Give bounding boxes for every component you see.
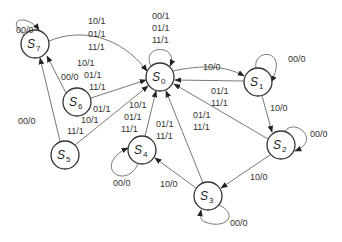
- label-s1-self: 00/0: [288, 54, 306, 64]
- label-s3-self: 00/0: [230, 218, 248, 228]
- label-s3-s0-1: 01/1: [156, 119, 174, 129]
- label-s7-s0-2: 01/1: [88, 29, 106, 39]
- label-s4-s0-1: 10/1: [129, 100, 147, 110]
- label-s3-s4: 10/0: [160, 179, 178, 189]
- label-s3-s0-2: 11/1: [156, 131, 173, 141]
- svg-text:S: S: [27, 37, 35, 51]
- label-s5-s0-1: 01/1: [93, 104, 111, 114]
- state-s1: S 1: [244, 68, 272, 96]
- svg-text:S: S: [200, 189, 208, 203]
- label-s6-s0-2: 01/1: [84, 70, 102, 80]
- svg-text:S: S: [57, 148, 65, 162]
- label-s1-s0-2: 11/1: [211, 98, 228, 108]
- svg-text:1: 1: [259, 82, 264, 91]
- label-s2-self: 00/0: [310, 129, 328, 139]
- state-s6: S 6: [63, 88, 91, 116]
- label-s4-self: 00/0: [113, 178, 131, 188]
- state-s0: S 0: [146, 63, 174, 91]
- svg-text:0: 0: [161, 77, 166, 86]
- svg-text:4: 4: [143, 150, 148, 159]
- label-s5-s0-2: 10/1: [81, 115, 99, 125]
- svg-text:S: S: [134, 143, 142, 157]
- label-s4-s0-2: 01/1: [124, 112, 142, 122]
- label-s5-s0-3: 11/1: [67, 126, 84, 136]
- label-s0-self-3: 11/1: [152, 35, 169, 45]
- label-s0-s1: 10/0: [203, 62, 221, 72]
- label-s6-s7: 00/0: [61, 72, 79, 82]
- label-s7-self: 00/0: [16, 25, 34, 35]
- edge-s1-s2: [262, 96, 272, 132]
- label-s4-s0-3: 11/1: [121, 124, 138, 134]
- label-s2-s0-1: 01/1: [193, 110, 211, 120]
- svg-text:S: S: [273, 138, 281, 152]
- edge-s5-s7: [40, 58, 60, 141]
- svg-text:5: 5: [66, 155, 71, 164]
- label-s0-self-2: 01/1: [152, 23, 170, 33]
- label-s6-s0-3: 11/1: [89, 82, 106, 92]
- svg-text:7: 7: [36, 44, 41, 53]
- state-s5: S 5: [51, 141, 79, 169]
- svg-text:S: S: [152, 70, 160, 84]
- label-s1-s0-1: 01/1: [211, 86, 229, 96]
- label-s0-self-1: 00/1: [152, 11, 170, 21]
- svg-text:6: 6: [78, 102, 83, 111]
- svg-text:2: 2: [282, 145, 287, 154]
- svg-text:S: S: [250, 75, 258, 89]
- state-s3: S 3: [194, 182, 222, 210]
- label-s5-s7: 00/0: [18, 116, 36, 126]
- label-s1-s2: 10/0: [270, 103, 288, 113]
- edge-s4-s0: [145, 91, 156, 136]
- edge-s7-s0: [49, 35, 147, 71]
- label-s7-s0-3: 11/1: [88, 42, 105, 52]
- state-s4: S 4: [128, 136, 156, 164]
- state-s2: S 2: [267, 131, 295, 159]
- label-s2-s0-2: 11/1: [193, 122, 210, 132]
- label-s2-s3: 10/0: [250, 172, 268, 182]
- svg-text:S: S: [69, 95, 77, 109]
- edge-s1-s0: [175, 80, 244, 81]
- state-diagram: S 0 S 1 S 2 S 3 S 4 S 5 S 6 S 7 00/0 10/…: [0, 0, 342, 242]
- label-s7-s0-1: 10/1: [88, 16, 106, 26]
- svg-text:3: 3: [209, 196, 214, 205]
- label-s6-s0-1: 10/1: [77, 58, 95, 68]
